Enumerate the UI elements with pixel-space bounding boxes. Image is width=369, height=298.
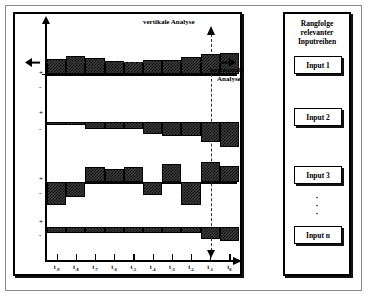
bar [47,182,66,205]
bar [66,56,85,74]
figure-root: + - + - + - + - t-9t-8t-7t-6t-5t-4t-3t-2… [0,0,369,298]
axis-sign-plus-3: + [39,176,43,182]
x-axis-tick [57,254,58,260]
x-axis-tick-label: t-5 [131,264,137,272]
sidebar-item-input-2[interactable]: Input 2 [294,108,342,126]
vertical-analysis-arrow-icon [206,250,218,262]
sidebar-panel: Rangfolge relevanter Inputreihen Input 1… [283,12,351,276]
bar [124,227,143,233]
axis-sign-minus-3: - [39,190,41,196]
horizontal-analysis-arrow-left-icon [25,57,41,68]
bar [124,62,143,74]
bar [143,227,162,233]
bar [124,167,143,182]
ellipsis-dot-3: · [285,210,349,216]
plot-area: + - + - + - + - t-9t-8t-7t-6t-5t-4t-3t-2… [15,14,240,274]
axis-sign-plus-4: + [39,219,43,225]
chart-panel: + - + - + - + - t-9t-8t-7t-6t-5t-4t-3t-2… [13,12,242,276]
axis-sign-plus-2: + [39,110,43,116]
x-axis-tick [172,254,173,260]
bar [66,227,85,233]
bar [85,167,104,182]
bar [85,227,104,233]
x-axis-tick-label: t-3 [169,264,175,272]
bar [105,122,124,129]
bar [162,164,181,182]
bar [124,122,143,129]
bar [47,122,66,125]
x-axis-tick-label: t-1 [207,264,213,272]
x-axis-tick-label: t-6 [111,264,117,272]
sidebar-item-input-1[interactable]: Input 1 [294,56,342,74]
x-axis-tick [114,254,115,260]
bar [162,122,181,136]
bar [220,122,239,147]
x-axis-tick [191,254,192,260]
bar [105,227,124,233]
bar [105,61,124,74]
y-axis [45,22,47,260]
bar [143,122,162,134]
x-axis-arrow-icon [233,256,245,266]
bar [105,169,124,182]
axis-sign-minus-4: - [39,232,41,238]
bar [85,58,104,74]
x-axis-tick-label: t-4 [150,264,156,272]
sidebar-title: Rangfolge relevanter Inputreihen [285,19,349,46]
annotation-vertikale-analyse: vertikale Analyse [143,18,195,27]
bar [162,227,181,233]
x-axis-tick-label: t-2 [188,264,194,272]
bar [181,182,200,205]
bar [143,182,162,195]
x-axis-tick-label: t-8 [73,264,79,272]
horizontal-analysis-line [47,62,237,63]
axis-sign-minus-2: - [39,126,41,132]
x-axis-tick-label: t0 [227,264,231,272]
x-axis-tick [76,254,77,260]
sidebar-item-input-n[interactable]: Input n [294,226,342,244]
bar [181,122,200,136]
bar [85,122,104,129]
baseline-row-1 [45,74,237,76]
annotation-horizontale-analyse-line2: Analyse [217,75,241,84]
axis-sign-plus-1: + [39,70,43,76]
bar [66,122,85,125]
axis-sign-minus-1: - [39,84,41,90]
bar [181,57,200,75]
x-axis-tick [229,254,230,260]
sidebar-title-line-2: relevanter [285,28,349,37]
y-axis-arrow-icon [41,16,51,26]
x-axis-tick-label: t-9 [54,264,60,272]
x-axis-tick-label: t-7 [92,264,98,272]
bar [47,227,66,233]
x-axis-tick [95,254,96,260]
bar [66,182,85,197]
sidebar-title-line-1: Rangfolge [285,19,349,28]
sidebar-title-line-3: Inputreihen [285,37,349,46]
vertical-analysis-arrow-up-icon [206,26,218,38]
x-axis-tick [133,254,134,260]
bar [181,227,200,233]
annotation-horizontale-analyse-line1: horizontale [210,66,244,75]
x-axis-tick [153,254,154,260]
sidebar-item-input-3[interactable]: Input 3 [294,166,342,184]
bar [220,227,239,241]
bar [220,166,239,182]
